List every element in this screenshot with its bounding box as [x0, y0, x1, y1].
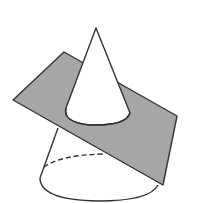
hidden-base-edge [44, 154, 104, 167]
cone-plane-diagram [0, 0, 200, 203]
cone-left-side-lower [40, 128, 58, 178]
cone-apex [95, 27, 96, 28]
base-ellipse-front [40, 178, 158, 201]
